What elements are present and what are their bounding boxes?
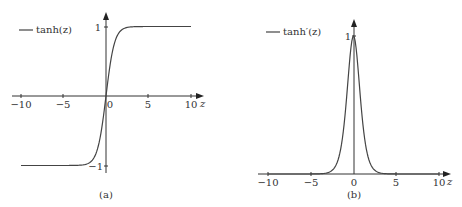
- xtick-b-3: 5: [393, 177, 399, 188]
- caption-a: (a): [99, 189, 113, 200]
- ytick-a-bottom: −1: [88, 161, 103, 172]
- xtick-a-4: 10: [185, 99, 198, 110]
- xtick-a-2: 0: [107, 99, 113, 110]
- xtick-b-1: −5: [304, 177, 319, 188]
- xtick-a-0: −10: [10, 99, 31, 110]
- legend-label-b: tanh′(z): [283, 26, 321, 37]
- figure: tanh(z) −10 −5 0 5 10 z 1 −1 (a) tanh′(z…: [0, 0, 462, 207]
- legend-label-a: tanh(z): [36, 24, 72, 35]
- panel-a: tanh(z) −10 −5 0 5 10 z 1 −1 (a): [10, 12, 206, 200]
- caption-b: (b): [347, 189, 361, 200]
- xtick-b-0: −10: [257, 177, 278, 188]
- xtick-b-4: 10: [433, 177, 446, 188]
- xtick-b-2: 0: [351, 177, 357, 188]
- xlabel-a: z: [199, 98, 206, 109]
- xlabel-b: z: [446, 176, 453, 187]
- ytick-b-top: 1: [345, 31, 351, 42]
- xtick-a-1: −5: [56, 99, 71, 110]
- y-axis-arrow-icon: [103, 12, 109, 20]
- xtick-a-3: 5: [145, 99, 151, 110]
- ytick-a-top: 1: [95, 22, 101, 33]
- panel-b: tanh′(z) −10 −5 0 5 10 z 1 (b): [257, 19, 453, 200]
- y-axis-arrow-icon: [351, 19, 357, 27]
